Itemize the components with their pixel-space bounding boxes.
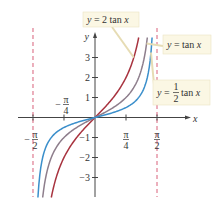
callout-leader <box>147 44 163 47</box>
y-tick-label: 1 <box>85 92 90 103</box>
callout-half-tanx: y = 12tan x <box>153 80 210 105</box>
x-tick-label-num: π <box>32 129 37 140</box>
eq: = <box>161 87 170 98</box>
callout-2tanx: y = 2 tan x <box>83 12 139 27</box>
callout-leader <box>112 27 134 58</box>
callout-text: y = 2 tan x <box>86 14 129 25</box>
x-tick-label-den: 2 <box>155 140 160 151</box>
x-tick-sign: − <box>55 99 61 110</box>
x-tick-label-den: 4 <box>124 140 129 151</box>
y-axis-label: y <box>84 31 90 42</box>
frac-den: 2 <box>174 93 179 104</box>
y-tick-label: 2 <box>85 72 90 83</box>
callout-tanx: y = tan x <box>163 35 211 54</box>
tangent-graph: xy321−1−2−3π2−π4−π4π2y = 2 tan xy = tan … <box>0 0 219 217</box>
x-tick-label-num: π <box>123 129 128 140</box>
x-tick-label-den: 4 <box>63 105 68 116</box>
var-x: x <box>123 14 129 25</box>
var-x: x <box>196 39 202 50</box>
y-tick-label: −1 <box>79 132 90 143</box>
eq: = 2 tan <box>91 14 124 25</box>
callout-tail: tan x <box>181 87 201 98</box>
y-axis-arrow-icon <box>93 32 97 38</box>
y-tick-label: 3 <box>85 52 90 63</box>
x-tick-label-num: π <box>63 94 68 105</box>
var-x: x <box>195 87 201 98</box>
x-tick-label-num: π <box>154 129 159 140</box>
x-axis-label: x <box>192 113 198 124</box>
eq: = tan <box>171 39 196 50</box>
callout-leader <box>151 53 154 85</box>
chart-container: xy321−1−2−3π2−π4−π4π2y = 2 tan xy = tan … <box>0 0 219 217</box>
tail: tan <box>181 87 196 98</box>
x-tick-label-den: 2 <box>32 140 37 151</box>
x-axis-arrow-icon <box>185 116 191 120</box>
y-tick-label: −3 <box>79 172 90 183</box>
callout-text: y = <box>156 87 170 98</box>
y-tick-label: −2 <box>79 152 90 163</box>
x-tick-sign: − <box>24 134 30 145</box>
frac-num: 1 <box>174 81 179 92</box>
callout-text: y = tan x <box>166 39 202 50</box>
